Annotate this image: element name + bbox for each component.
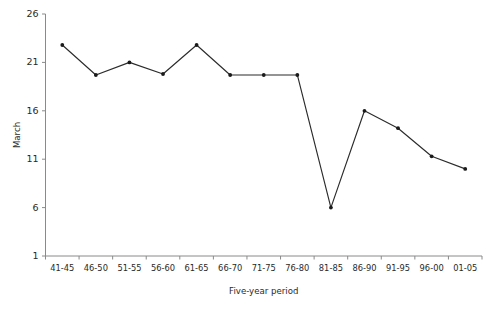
data-point-marker	[94, 73, 98, 77]
x-axis-tick-label: 71-75	[252, 263, 276, 273]
y-axis-tick-label: 16	[26, 105, 38, 116]
y-axis-tick-label: 1	[32, 250, 38, 261]
x-axis-tick-label: 51-55	[117, 263, 141, 273]
x-axis-title: Five-year period	[229, 286, 298, 296]
line-chart-container: 161116212641-4546-5051-5556-6061-6566-70…	[0, 0, 492, 309]
x-axis-tick-label: 66-70	[218, 263, 242, 273]
data-point-marker	[195, 43, 199, 47]
x-axis-tick-label: 46-50	[84, 263, 108, 273]
data-point-marker	[60, 43, 64, 47]
x-axis-tick-label: 61-65	[185, 263, 209, 273]
chart-canvas: 161116212641-4546-5051-5556-6061-6566-70…	[0, 0, 492, 309]
data-point-marker	[329, 206, 333, 210]
x-axis-tick-label: 01-05	[453, 263, 477, 273]
data-series-line	[62, 45, 465, 208]
y-axis-tick-label: 6	[32, 202, 38, 213]
x-axis-tick-label: 41-45	[50, 263, 74, 273]
data-point-marker	[161, 72, 165, 76]
data-point-marker	[396, 126, 400, 130]
data-point-marker	[128, 61, 132, 65]
x-axis-tick-label: 56-60	[151, 263, 175, 273]
data-point-marker	[262, 73, 266, 77]
x-axis-tick-label: 91-95	[386, 263, 410, 273]
y-axis-title: March	[12, 122, 22, 148]
data-point-marker	[363, 109, 367, 113]
y-axis-tick-label: 26	[26, 8, 38, 19]
x-axis-tick-label: 76-80	[285, 263, 309, 273]
data-point-marker	[228, 73, 232, 77]
data-point-marker	[430, 154, 434, 158]
y-axis-tick-label: 21	[26, 56, 38, 67]
y-axis-tick-label: 11	[26, 153, 38, 164]
data-point-marker	[295, 73, 299, 77]
x-axis-tick-label: 86-90	[352, 263, 376, 273]
x-axis-tick-label: 96-00	[420, 263, 444, 273]
x-axis-tick-label: 81-85	[319, 263, 343, 273]
data-point-marker	[463, 167, 467, 171]
